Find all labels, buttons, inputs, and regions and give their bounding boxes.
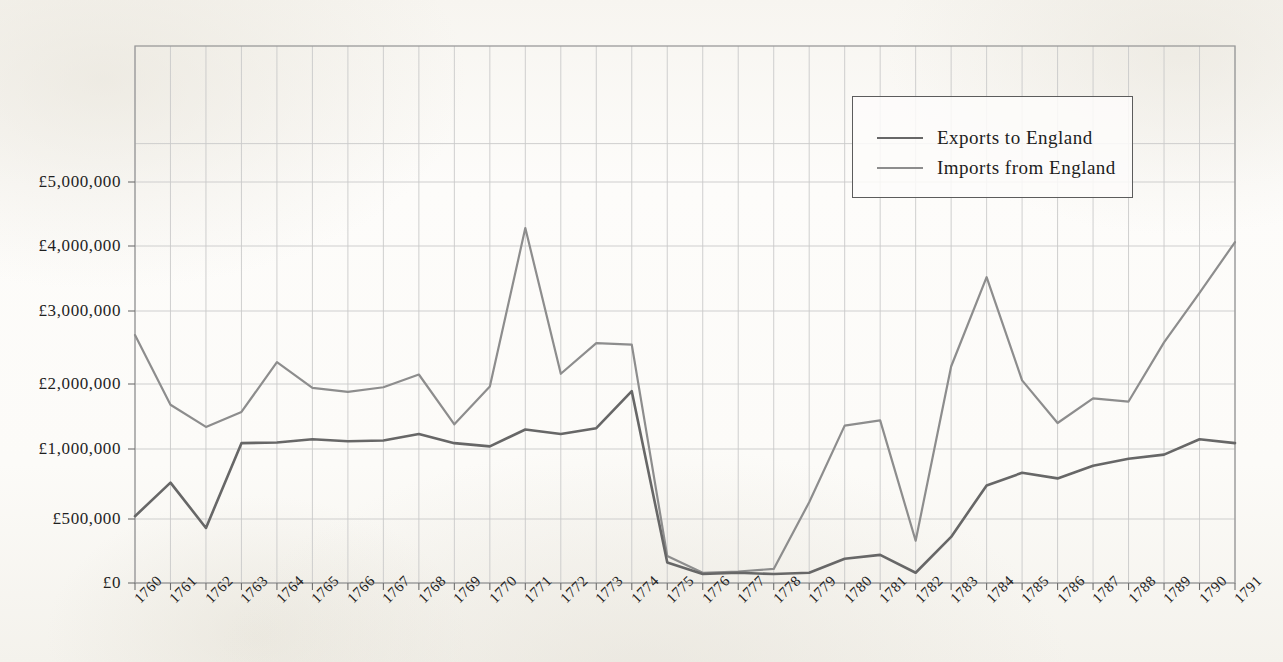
y-axis-tick-label: £0 (0, 573, 121, 593)
y-axis-tick-label: £5,000,000 (0, 172, 121, 192)
legend-label: Exports to England (937, 127, 1093, 149)
legend-line-swatch (877, 137, 923, 139)
y-axis-tick-label: £4,000,000 (0, 236, 121, 256)
chart-figure: £5,000,000£4,000,000£3,000,000£2,000,000… (0, 0, 1283, 662)
chart-legend: Exports to EnglandImports from England (852, 96, 1133, 198)
legend-label: Imports from England (937, 157, 1116, 179)
y-axis-tick-label: £1,000,000 (0, 439, 121, 459)
y-axis-tick-label: £3,000,000 (0, 301, 121, 321)
legend-item: Exports to England (877, 127, 1093, 149)
series-line-imports-from-england (135, 228, 1235, 573)
y-axis-tick-label: £500,000 (0, 509, 121, 529)
legend-line-swatch (877, 167, 923, 169)
series-line-exports-to-england (135, 391, 1235, 574)
y-axis-tick-label: £2,000,000 (0, 374, 121, 394)
legend-item: Imports from England (877, 157, 1116, 179)
